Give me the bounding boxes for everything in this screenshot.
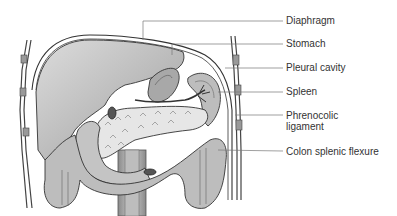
label-phrenocolic-line1: Phrenocolic bbox=[286, 110, 338, 121]
right-rib-wall bbox=[231, 36, 242, 200]
label-phrenocolic-line2: ligament bbox=[286, 121, 338, 132]
label-pleural-cavity: Pleural cavity bbox=[286, 62, 345, 73]
label-phrenocolic-ligament: Phrenocolic ligament bbox=[286, 110, 338, 132]
label-colon-splenic-flexure: Colon splenic flexure bbox=[286, 146, 379, 157]
anatomy-diagram: Diaphragm Stomach Pleural cavity Spleen … bbox=[0, 0, 397, 216]
label-stomach: Stomach bbox=[286, 38, 325, 49]
cut-vessel-lower bbox=[144, 169, 156, 175]
left-rib-wall bbox=[20, 40, 32, 208]
leader-diaphragm bbox=[143, 21, 283, 40]
leader-stomach bbox=[172, 44, 283, 55]
cut-vessel-upper bbox=[108, 107, 116, 119]
label-spleen: Spleen bbox=[286, 86, 317, 97]
label-diaphragm: Diaphragm bbox=[286, 15, 335, 26]
